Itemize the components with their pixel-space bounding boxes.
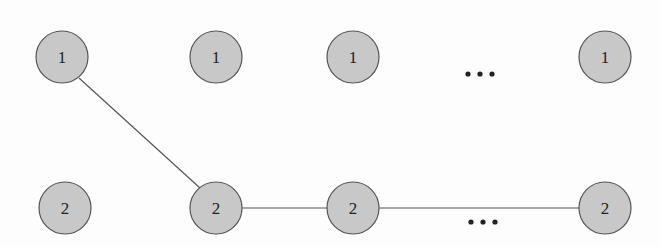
node-label: 1 — [349, 48, 358, 67]
node-bottom-1: 2 — [39, 182, 91, 234]
node-label: 1 — [212, 48, 221, 67]
ellipsis-bottom — [468, 219, 497, 224]
node-label: 2 — [212, 199, 221, 218]
node-label: 2 — [601, 199, 610, 218]
path-diagram: 1 1 1 1 2 2 2 2 — [0, 0, 660, 247]
node-top-2: 1 — [190, 31, 242, 83]
node-label: 1 — [601, 48, 610, 67]
edges — [79, 78, 579, 208]
node-bottom-2: 2 — [190, 182, 242, 234]
node-top-3: 1 — [327, 31, 379, 83]
node-label: 2 — [61, 199, 70, 218]
diagram-svg: 1 1 1 1 2 2 2 2 — [0, 0, 660, 247]
edge-t1-b2 — [79, 78, 200, 188]
node-bottom-4: 2 — [579, 182, 631, 234]
node-top-4: 1 — [579, 31, 631, 83]
node-top-1: 1 — [36, 31, 88, 83]
node-bottom-3: 2 — [327, 182, 379, 234]
node-label: 1 — [58, 48, 67, 67]
node-label: 2 — [349, 199, 358, 218]
ellipsis-top — [465, 71, 494, 76]
